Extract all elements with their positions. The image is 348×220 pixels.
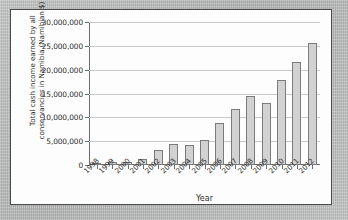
x-tick-label: 1998 xyxy=(81,156,100,175)
bar-slot xyxy=(89,22,104,165)
x-axis-title: Year xyxy=(89,194,320,203)
y-tick-label: 15,000,000 xyxy=(42,89,83,98)
bar xyxy=(277,80,286,165)
y-tick-label: 5,000,000 xyxy=(46,137,83,146)
y-tick-label: 20,000,000 xyxy=(42,65,83,74)
plot-area: 05,000,00010,000,00015,000,00020,000,000… xyxy=(89,22,320,165)
bar-series xyxy=(89,22,320,165)
bar-slot xyxy=(212,22,227,165)
bar-slot xyxy=(120,22,135,165)
bar xyxy=(292,62,301,165)
chart-figure-panel: Total cash income earned by all conserva… xyxy=(10,9,332,205)
bar xyxy=(246,96,255,165)
bar-slot xyxy=(151,22,166,165)
bar-slot xyxy=(181,22,196,165)
bar-slot xyxy=(166,22,181,165)
bar-slot xyxy=(104,22,119,165)
y-tick-label: 10,000,000 xyxy=(42,113,83,122)
page-root: Total cash income earned by all conserva… xyxy=(0,0,348,220)
bar-slot xyxy=(197,22,212,165)
bar-slot xyxy=(243,22,258,165)
bar-slot xyxy=(135,22,150,165)
bar-slot xyxy=(289,22,304,165)
bar-slot xyxy=(258,22,273,165)
bar xyxy=(308,43,317,165)
y-tick-label: 30,000,000 xyxy=(42,18,83,27)
bar-slot xyxy=(305,22,320,165)
bar-slot xyxy=(274,22,289,165)
y-tick-label: 25,000,000 xyxy=(42,41,83,50)
bar-slot xyxy=(228,22,243,165)
